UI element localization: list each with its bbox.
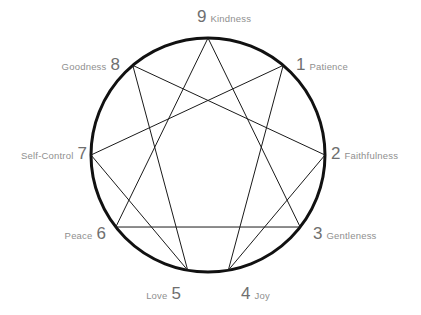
point-7-word: Self-Control (21, 151, 74, 161)
point-6-number: 6 (97, 225, 106, 242)
point-8-number: 8 (111, 56, 120, 73)
point-2-number: 2 (331, 145, 340, 162)
point-8-word: Goodness (62, 62, 107, 72)
point-9-word: Kindness (210, 14, 251, 24)
enneagram-point-7: Self-Control 7 (0, 145, 87, 162)
point-4-word: Joy (254, 291, 269, 301)
enneagram-point-9: 9 Kindness (197, 8, 251, 25)
enneagram-point-6: Peace 6 (0, 225, 106, 242)
point-1-number: 1 (296, 56, 305, 73)
enneagram-point-4: 4 Joy (241, 285, 270, 302)
enneagram-point-8: Goodness 8 (0, 56, 120, 73)
point-7-number: 7 (78, 145, 87, 162)
enneagram-point-5: Love 5 (0, 285, 181, 302)
point-4-number: 4 (241, 285, 250, 302)
enneagram-diagram: 9 Kindness 1 Patience 2 Faithfulness 3 G… (0, 0, 421, 315)
point-3-word: Gentleness (326, 231, 376, 241)
point-2-word: Faithfulness (344, 151, 398, 161)
point-3-number: 3 (313, 225, 322, 242)
enneagram-circle (91, 38, 325, 272)
point-6-word: Peace (65, 231, 93, 241)
point-9-number: 9 (197, 8, 206, 25)
point-1-word: Patience (309, 62, 348, 72)
enneagram-point-2: 2 Faithfulness (331, 145, 398, 162)
point-5-word: Love (146, 291, 167, 301)
enneagram-point-1: 1 Patience (296, 56, 348, 73)
point-5-number: 5 (172, 285, 181, 302)
enneagram-point-3: 3 Gentleness (313, 225, 377, 242)
enneagram-triangle-9-3-6 (116, 38, 300, 227)
